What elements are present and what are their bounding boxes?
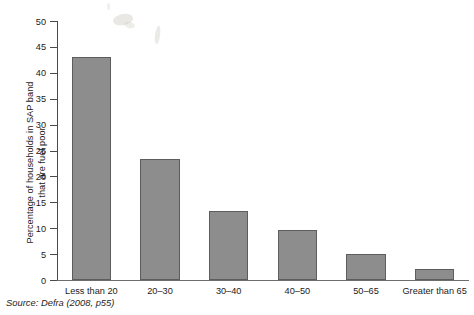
y-axis-tick: 45 — [50, 47, 57, 48]
x-axis-category-label: Less than 20 — [65, 286, 118, 296]
x-axis-category-label: 50–65 — [353, 286, 379, 296]
y-axis-tick-label: 0 — [41, 276, 46, 286]
x-axis-spine — [57, 280, 469, 281]
x-axis-category-label: 30–40 — [216, 286, 242, 296]
x-axis-category-label: 40–50 — [285, 286, 311, 296]
y-axis-spine — [57, 21, 58, 280]
bar — [72, 57, 111, 280]
y-axis-tick: 50 — [50, 21, 57, 22]
y-axis-tick-label: 45 — [36, 42, 46, 52]
bar — [140, 159, 179, 280]
y-axis-tick-label: 35 — [36, 94, 46, 104]
y-axis-title: Percentage of households in SAP band tha… — [25, 48, 48, 278]
y-axis-tick-label: 40 — [36, 68, 46, 78]
y-axis-tick-label: 15 — [36, 198, 46, 208]
bar — [209, 211, 248, 280]
y-axis-tick: 35 — [50, 99, 57, 100]
y-axis-tick: 40 — [50, 73, 57, 74]
y-axis-tick-label: 10 — [36, 224, 46, 234]
source-caption: Source: Defra (2008, p55) — [6, 297, 114, 308]
bar — [278, 230, 317, 280]
x-axis-category-label: Greater than 65 — [402, 286, 466, 296]
y-axis-tick: 5 — [50, 254, 57, 255]
y-axis-tick: 20 — [50, 176, 57, 177]
y-axis-tick-label: 5 — [41, 250, 46, 260]
figure-bar-chart-fuel-poverty-by-sap-band: Percentage of households in SAP band tha… — [0, 0, 474, 315]
y-axis-tick-label: 25 — [36, 146, 46, 156]
plot-area: 05101520253035404550 Less than 2020–3030… — [57, 21, 469, 280]
bar — [346, 254, 385, 280]
y-axis-tick: 0 — [50, 280, 57, 281]
y-axis-tick: 30 — [50, 125, 57, 126]
y-axis-tick-label: 20 — [36, 172, 46, 182]
y-axis-tick: 10 — [50, 228, 57, 229]
y-axis-tick: 25 — [50, 151, 57, 152]
y-axis-tick-label: 30 — [36, 120, 46, 130]
y-axis-tick: 15 — [50, 202, 57, 203]
bar — [415, 269, 454, 280]
y-axis-tick-label: 50 — [36, 17, 46, 27]
scan-artifact-smudge — [107, 3, 110, 10]
x-axis-category-label: 20–30 — [147, 286, 173, 296]
